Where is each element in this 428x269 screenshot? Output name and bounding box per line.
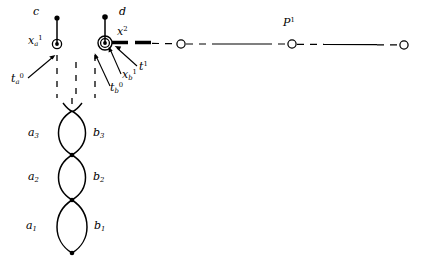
label-x-b-1: xb1 <box>122 69 137 82</box>
label-t-b-0: tb0 <box>110 82 123 95</box>
path-vertex-1 <box>177 40 185 48</box>
arrow-line-t-a-0 <box>28 57 53 78</box>
label-a1: a1 <box>26 220 37 233</box>
top-dot-c <box>54 15 59 20</box>
label-a3: a3 <box>28 127 39 140</box>
label-x-2: x2 <box>117 26 128 37</box>
loop-top-cross-left <box>63 103 73 112</box>
label-b2: b2 <box>93 171 104 184</box>
figure-canvas: c d xa1 x2 ta0 t1 xb1 tb0 P1 a3 b3 a2 b2… <box>0 0 428 269</box>
arrow-head-t-1 <box>115 46 122 51</box>
loop-2-right-arc-b2 <box>72 155 86 200</box>
arrow-line-t-1 <box>117 48 137 66</box>
label-b1: b1 <box>94 220 105 233</box>
loop-1-right-arc-b1 <box>72 200 87 253</box>
loop-top-cross-right <box>73 103 83 112</box>
arrow-line-x-b-1 <box>110 49 121 74</box>
path-vertex-3 <box>400 41 408 49</box>
vertex-a-core <box>55 42 59 46</box>
label-d: d <box>119 6 126 17</box>
loop-node-upper <box>70 153 75 158</box>
label-c: c <box>33 6 39 17</box>
label-b3: b3 <box>93 127 104 140</box>
label-t-1: t1 <box>139 61 148 72</box>
arrow-line-t-b-0 <box>96 56 110 86</box>
loop-3-right-arc-b3 <box>72 111 86 155</box>
vertex-b-core <box>103 41 107 45</box>
arrow-head-t-b-0 <box>94 53 98 59</box>
label-a2: a2 <box>28 171 39 184</box>
top-dot-d <box>102 14 108 20</box>
path-vertex-2 <box>288 40 296 48</box>
loop-1-left-arc-a1 <box>57 200 72 253</box>
label-P-1: P1 <box>283 17 295 28</box>
loop-node-bottom <box>70 251 75 256</box>
loop-2-left-arc-a2 <box>59 155 73 200</box>
loop-3-left-arc-a3 <box>59 111 73 155</box>
label-x-a-1: xa1 <box>28 35 43 48</box>
diagram-svg <box>0 0 428 269</box>
label-t-a-0: ta0 <box>11 73 24 86</box>
loop-node-lower <box>70 198 75 203</box>
